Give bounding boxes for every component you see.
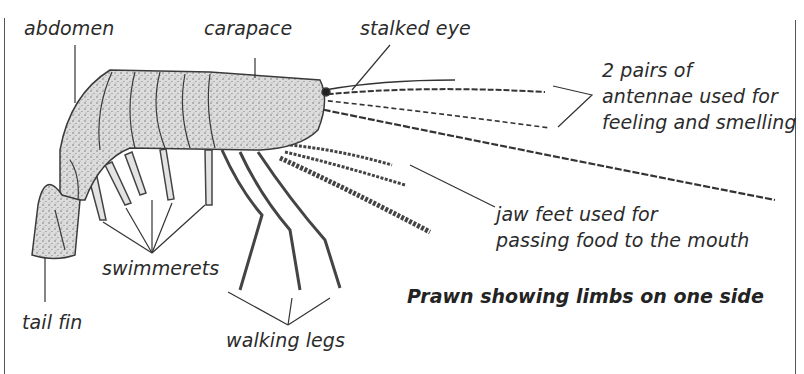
prawn-illustration (0, 0, 804, 374)
label-antennae-line1: 2 pairs of (602, 58, 692, 82)
label-jaw-feet-line1: jaw feet used for (496, 202, 658, 226)
diagram-caption: Prawn showing limbs on one side (407, 285, 764, 307)
jaw-feet (280, 145, 430, 232)
label-stalked-eye: stalked eye (360, 16, 471, 40)
label-antennae-line2: antennae used for (602, 84, 778, 108)
walking-legs (222, 150, 340, 290)
prawn-body (32, 70, 330, 259)
label-swimmerets: swimmerets (102, 256, 219, 280)
label-antennae-line3: feeling and smelling (602, 110, 797, 134)
label-walking-legs: walking legs (226, 328, 345, 352)
label-tail-fin: tail fin (22, 310, 83, 334)
label-jaw-feet-line2: passing food to the mouth (496, 228, 749, 252)
label-abdomen: abdomen (24, 16, 114, 40)
label-carapace: carapace (204, 16, 292, 40)
